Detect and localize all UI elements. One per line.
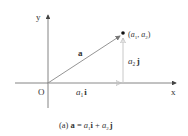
origin-label: O: [38, 87, 45, 97]
figure-caption: (a) a = a1i + a2j: [59, 120, 113, 131]
point-marker: [121, 31, 125, 35]
y-axis-label: y: [36, 12, 41, 22]
horizontal-component-label: a1i: [76, 87, 87, 98]
vector-a-arrow: [48, 36, 120, 83]
vertical-component-label: a2j: [128, 56, 140, 67]
vector-components-diagram: y x O a (a1, a2) a2j a1i (a) a = a1i + a…: [0, 0, 188, 136]
point-coordinates-label: (a1, a2): [128, 30, 151, 40]
x-axis-label: x: [171, 87, 176, 97]
vector-a-label: a: [78, 48, 83, 58]
